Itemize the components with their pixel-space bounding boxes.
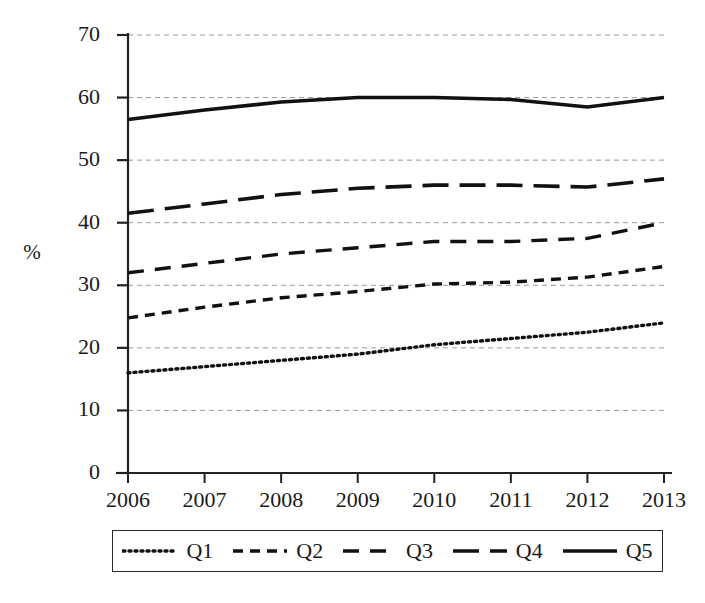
legend-item-q5[interactable]: Q5 — [562, 540, 653, 562]
plot-area — [0, 0, 705, 603]
legend-item-q3[interactable]: Q3 — [342, 540, 433, 562]
legend-item-q1[interactable]: Q1 — [122, 540, 213, 562]
line-chart: % 706050403020100 2006200720082009201020… — [0, 0, 705, 603]
legend-swatch-q3-icon — [342, 544, 398, 558]
legend-swatch-q1-icon — [122, 544, 178, 558]
legend-item-q4[interactable]: Q4 — [452, 540, 543, 562]
chart-legend: Q1Q2Q3Q4Q5 — [112, 530, 663, 572]
series-line-q1 — [128, 323, 664, 373]
series-line-q5 — [128, 98, 664, 120]
legend-swatch-q5-icon — [562, 544, 618, 558]
legend-swatch-q4-icon — [452, 544, 508, 558]
series-line-q3 — [128, 223, 664, 273]
legend-label: Q5 — [626, 540, 653, 562]
legend-label: Q2 — [296, 540, 323, 562]
legend-item-q2[interactable]: Q2 — [232, 540, 323, 562]
legend-label: Q3 — [406, 540, 433, 562]
series-line-q2 — [128, 267, 664, 318]
legend-swatch-q2-icon — [232, 544, 288, 558]
series-line-q4 — [128, 179, 664, 213]
legend-label: Q1 — [186, 540, 213, 562]
legend-label: Q4 — [516, 540, 543, 562]
